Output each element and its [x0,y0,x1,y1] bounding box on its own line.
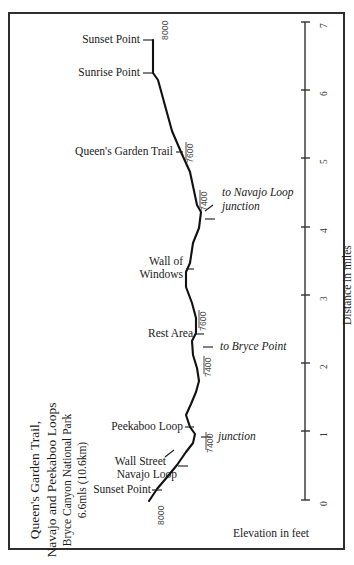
axis-tick-0: 0 [319,501,329,506]
elevation-label-7400-bryce: 7400 [203,357,213,377]
axis-tick-1: 1 [319,432,329,437]
annotation-to-navajo-loop: to Navajo Loop [222,186,294,199]
distance-axis [301,22,310,500]
distance-axis-title: Distance in miles [341,245,353,325]
label-wall-of-windows-line1: Wall of [0,255,183,268]
label-sunrise-point: Sunrise Point [0,66,140,79]
elevation-profile-figure: Queen's Garden Trail, Navajo and Peekabo… [0,0,354,565]
elevation-label-7400-junction: 7400 [205,433,215,453]
label-sunset-point-bottom: Sunset Point [0,483,151,496]
elevation-label-7400-navajo: 7400 [199,191,209,211]
axis-tick-5: 5 [319,159,329,164]
axis-tick-2: 2 [319,364,329,369]
label-wall-street: Wall Street [0,455,166,468]
label-wall-of-windows-line2: Windows [0,268,183,281]
axis-tick-4: 4 [319,228,329,233]
label-sunset-point-top: Sunset Point [0,33,140,46]
elevation-label-7600-queens: 7600 [185,143,195,163]
elevation-label-8000-top: 8000 [160,20,170,40]
elevation-label-7600-rest: 7600 [198,311,208,331]
axis-tick-6: 6 [319,91,329,96]
label-navajo-loop: Navajo Loop [0,468,177,481]
axis-tick-3: 3 [319,296,329,301]
elevation-caption: Elevation in feet [233,527,309,539]
label-queens-garden-trail: Queen's Garden Trail [0,145,173,158]
elevation-label-8000-bottom: 8000 [156,505,166,525]
annotation-navajo-junction: junction [222,200,260,213]
axis-tick-7: 7 [319,23,329,28]
label-rest-area: Rest Area [0,327,193,340]
label-peekaboo-loop: Peekaboo Loop [0,420,183,433]
annotation-to-bryce-point: to Bryce Point [220,340,286,353]
annotation-peekaboo-junction: junction [218,430,256,443]
